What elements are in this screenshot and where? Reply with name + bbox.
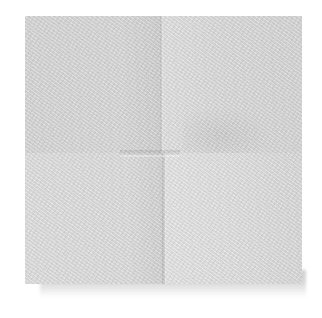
vertical-fold-bottom (162, 155, 166, 284)
pad-quadrant-bottom-left (25, 153, 165, 284)
pad-quadrant-top-left (25, 16, 162, 153)
horizontal-crease-highlight (120, 155, 180, 157)
product-photo (0, 0, 322, 318)
vertical-fold-top (160, 16, 163, 153)
gauze-pad (25, 16, 302, 284)
pad-quadrant-bottom-right (165, 153, 302, 284)
pad-quadrant-top-right (162, 16, 302, 153)
